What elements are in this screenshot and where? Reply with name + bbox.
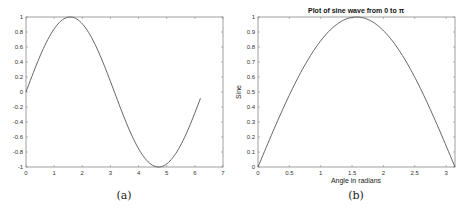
plot-b-title: Plot of sine wave from 0 to π (308, 7, 405, 14)
x-tick-label: 2.5 (411, 170, 420, 176)
x-tick-label: 0 (256, 170, 260, 176)
x-tick-label: 5 (165, 170, 169, 176)
x-tick-label: 1 (52, 170, 56, 176)
y-tick-label: 0.9 (247, 29, 256, 35)
plot-b: 00.511.522.53 00.10.20.30.40.50.60.70.80… (235, 7, 455, 202)
y-tick-label: 0.2 (15, 74, 24, 80)
x-tick-label: 7 (221, 170, 225, 176)
y-tick-label: -0.4 (13, 119, 24, 125)
plot-b-xlabel: Angle in radians (331, 177, 382, 185)
plot-a-axes-box (26, 17, 223, 167)
y-tick-label: 0.7 (247, 59, 256, 65)
plot-b-caption: (b) (348, 189, 364, 202)
y-tick-label: 0 (252, 164, 256, 170)
plot-a: 01234567 -1-0.8-0.6-0.4-0.200.20.40.60.8… (13, 14, 226, 202)
y-tick-label: 0.6 (15, 44, 24, 50)
y-tick-label: -0.2 (13, 104, 24, 110)
y-tick-label: 0 (20, 89, 24, 95)
plot-b-axes-box (258, 17, 455, 167)
y-tick-label: 0.8 (247, 44, 256, 50)
figure: 01234567 -1-0.8-0.6-0.4-0.200.20.40.60.8… (0, 0, 463, 212)
y-tick-label: 1 (252, 14, 256, 20)
y-tick-label: 0.6 (247, 74, 256, 80)
plot-b-ylabel: Sine (235, 85, 242, 99)
x-tick-label: 1.5 (348, 170, 357, 176)
x-tick-label: 3 (109, 170, 113, 176)
y-tick-label: 0.1 (247, 149, 256, 155)
y-tick-label: 0.2 (247, 134, 256, 140)
x-tick-label: 1 (319, 170, 323, 176)
y-tick-label: 0.4 (247, 104, 256, 110)
x-tick-label: 0.5 (285, 170, 294, 176)
y-tick-label: -0.8 (13, 149, 24, 155)
y-tick-label: 0.4 (15, 59, 24, 65)
x-tick-label: 2 (382, 170, 386, 176)
y-tick-label: 1 (20, 14, 24, 20)
x-tick-label: 0 (24, 170, 28, 176)
x-tick-label: 3 (444, 170, 448, 176)
y-tick-label: 0.5 (247, 89, 256, 95)
y-tick-label: -1 (18, 164, 24, 170)
x-tick-label: 2 (81, 170, 85, 176)
plot-a-caption: (a) (116, 189, 131, 202)
y-tick-label: -0.6 (13, 134, 24, 140)
y-tick-label: 0.3 (247, 119, 256, 125)
x-tick-label: 6 (193, 170, 197, 176)
x-tick-label: 4 (137, 170, 141, 176)
y-tick-label: 0.8 (15, 29, 24, 35)
